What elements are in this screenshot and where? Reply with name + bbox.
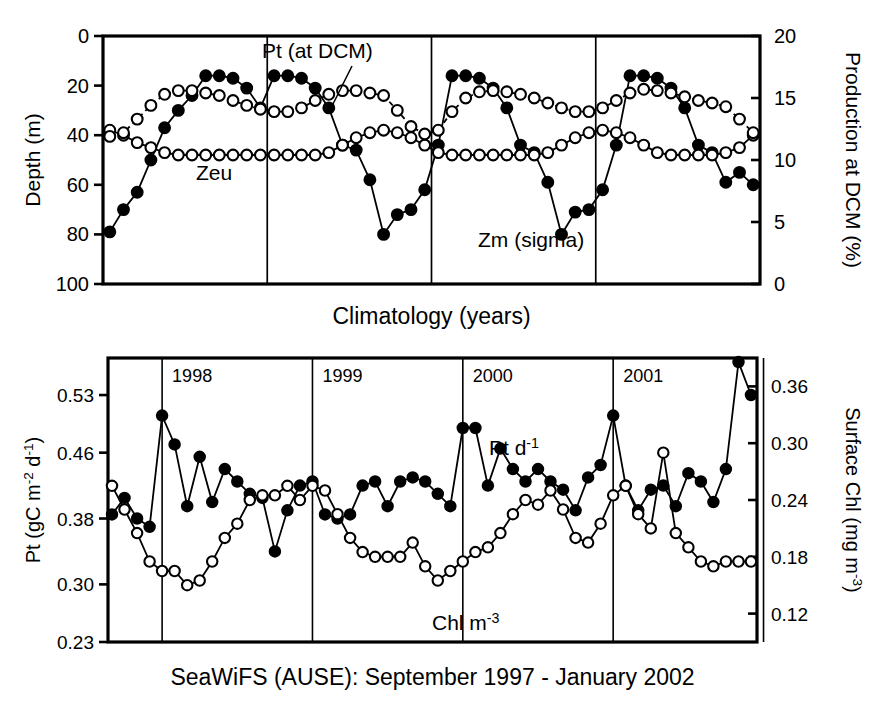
data-point [107, 481, 117, 491]
data-point [296, 150, 307, 161]
data-point [173, 85, 184, 96]
data-point [542, 147, 553, 158]
data-point [679, 150, 690, 161]
seawifs-timeseries-chart: 19981999200020010.530.460.380.300.230.36… [0, 330, 871, 721]
data-point [159, 89, 170, 100]
year-label-2000: 2000 [473, 366, 513, 386]
data-point [146, 100, 157, 111]
data-point [282, 150, 293, 161]
data-point [597, 184, 608, 195]
data-point [708, 561, 718, 571]
data-point [621, 481, 631, 491]
data-point [395, 476, 405, 486]
data-point [406, 121, 417, 132]
left-tick-label: 20 [67, 75, 89, 97]
data-point [169, 439, 179, 449]
data-point [159, 122, 170, 133]
pt-dcm-label: Pt (at DCM) [262, 39, 373, 62]
data-point [382, 501, 392, 511]
data-point [173, 105, 184, 116]
year-label-1998: 1998 [172, 366, 212, 386]
right-tick-label: 20 [774, 25, 796, 47]
data-point [652, 85, 663, 96]
data-point [365, 88, 376, 99]
data-point [157, 566, 167, 576]
data-point [458, 423, 468, 433]
data-point [447, 106, 458, 117]
year-label-2001: 2001 [623, 366, 663, 386]
left-tick-label: 0.23 [57, 632, 94, 653]
pt-series-label: Pt d-1 [489, 435, 539, 459]
data-point [608, 490, 618, 500]
series-line-0 [112, 362, 751, 551]
data-point [734, 167, 745, 178]
data-point [556, 103, 567, 114]
right-tick-label: 10 [774, 149, 796, 171]
data-point [269, 150, 280, 161]
data-point [515, 89, 526, 100]
data-point [611, 140, 622, 151]
data-point [508, 464, 518, 474]
data-point [132, 114, 143, 125]
left-tick-label: 40 [67, 124, 89, 146]
data-point [679, 103, 690, 114]
left-axis-title: Pt (gC m-2 d-1) [21, 437, 44, 563]
left-tick-label: 0.30 [57, 574, 94, 595]
data-point [241, 83, 252, 94]
data-point [207, 556, 217, 566]
data-point [570, 505, 580, 515]
right-tick-label: 0.24 [771, 490, 808, 511]
data-point [501, 150, 512, 161]
right-tick-label: 0.18 [771, 547, 808, 568]
data-point [584, 204, 595, 215]
data-point [323, 147, 334, 158]
right-axis-title: Production at DCM (%) [842, 52, 865, 268]
x-axis-title: Climatology (years) [332, 303, 530, 329]
data-point [282, 481, 292, 491]
data-point [542, 177, 553, 188]
data-point [187, 85, 198, 96]
data-point [182, 501, 192, 511]
right-tick-label: 0.12 [771, 604, 808, 625]
data-point [458, 556, 468, 566]
right-axis-title: Surface Chl (mg m-3) [842, 407, 865, 592]
data-point [483, 480, 493, 490]
data-point [570, 207, 581, 218]
data-point [282, 505, 292, 515]
data-point [173, 150, 184, 161]
data-point [488, 150, 499, 161]
data-point [515, 150, 526, 161]
data-point [382, 552, 392, 562]
data-point [146, 155, 157, 166]
data-point [474, 86, 485, 97]
data-point [433, 125, 444, 136]
left-tick-label: 0.38 [57, 509, 94, 530]
data-point [195, 452, 205, 462]
data-point [693, 95, 704, 106]
right-tick-label: 0.36 [771, 376, 808, 397]
data-point [483, 542, 493, 552]
data-point [182, 580, 192, 590]
data-point [597, 103, 608, 114]
data-point [625, 88, 636, 99]
data-point [501, 86, 512, 97]
data-point [584, 127, 595, 138]
data-point [228, 95, 239, 106]
data-point [132, 187, 143, 198]
data-point [520, 476, 530, 486]
data-point [365, 127, 376, 138]
data-point [406, 132, 417, 143]
data-point [433, 147, 444, 158]
data-point [433, 489, 443, 499]
data-point [646, 485, 656, 495]
data-point [395, 552, 405, 562]
data-point [520, 495, 530, 505]
data-point [104, 131, 115, 142]
data-point [420, 561, 430, 571]
data-point [357, 480, 367, 490]
figure-root: 02040608010020151050Depth (m)Production … [0, 0, 871, 721]
climatology-chart: 02040608010020151050Depth (m)Production … [0, 0, 871, 330]
data-point [533, 500, 543, 510]
data-point [720, 177, 731, 188]
data-point [708, 497, 718, 507]
